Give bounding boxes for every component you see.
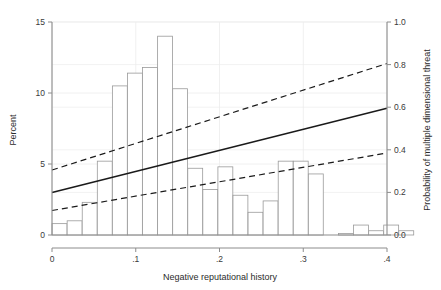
y2-axis-tick-label: 0.4 (394, 145, 406, 155)
y2-axis-tick-label: 0.0 (394, 230, 406, 240)
histogram-bar (97, 161, 112, 235)
figure-background (0, 0, 441, 290)
y-axis-tick-label: 0 (40, 230, 45, 240)
histogram-bar (82, 202, 97, 235)
y-axis-tick-label: 15 (36, 17, 46, 27)
histogram-bar (354, 225, 369, 235)
histogram-bar (293, 161, 308, 235)
histogram-bar (188, 168, 203, 235)
x-axis-tick-label: .4 (383, 254, 390, 264)
x-axis-title: Negative reputational history (163, 272, 278, 282)
histogram-bar (278, 161, 293, 235)
histogram-bar (67, 221, 82, 235)
histogram-bar (112, 86, 127, 235)
x-axis-tick-label: .3 (300, 254, 307, 264)
histogram-bar (52, 224, 67, 235)
histogram-bar (263, 201, 278, 235)
x-axis-tick-label: .2 (216, 254, 223, 264)
histogram-bar (127, 73, 142, 235)
x-axis-tick-label: 0 (50, 254, 55, 264)
x-axis-tick-label: .1 (132, 254, 139, 264)
y2-axis-tick-label: 1.0 (394, 17, 406, 27)
histogram-bar (369, 231, 384, 235)
y-axis-tick-label: 10 (36, 88, 46, 98)
histogram-bar (233, 195, 248, 235)
y2-axis-tick-label: 0.2 (394, 187, 406, 197)
y2-axis-tick-label: 0.6 (394, 102, 406, 112)
histogram-bar (143, 67, 158, 235)
y2-axis-tick-label: 0.8 (394, 60, 406, 70)
y-axis-tick-label: 5 (40, 159, 45, 169)
histogram-bar (218, 167, 233, 235)
chart-canvas: 0510150.00.20.40.60.81.00.1.2.3.4 Percen… (0, 0, 441, 290)
histogram-bar (248, 212, 263, 235)
histogram-bar (308, 174, 323, 235)
y2-axis-title: Probability of multiple dimensional thre… (422, 49, 432, 211)
histogram-bar (203, 190, 218, 235)
chart-figure: 0510150.00.20.40.60.81.00.1.2.3.4 Percen… (0, 0, 441, 290)
y-axis-title: Percent (8, 114, 18, 146)
